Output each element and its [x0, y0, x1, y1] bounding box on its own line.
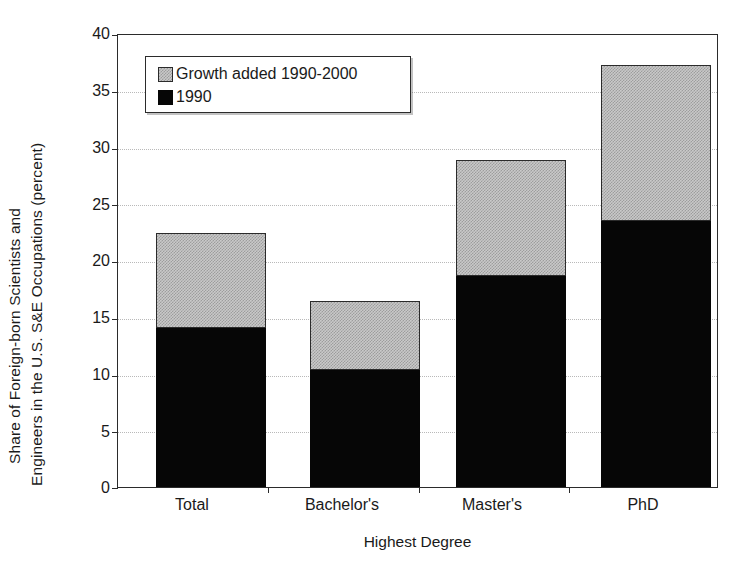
y-tick-label-15: 15: [76, 310, 110, 326]
bar-bachelors[interactable]: [310, 301, 420, 487]
y-tickmark-30: [112, 149, 118, 150]
legend-entry-1990[interactable]: 1990: [158, 87, 212, 107]
bar-masters-segment-growth[interactable]: [456, 160, 566, 276]
y-tickmark-35: [112, 92, 118, 93]
x-tickmark-2: [419, 487, 420, 493]
legend-entry-growth[interactable]: Growth added 1990-2000: [158, 64, 357, 84]
bar-masters[interactable]: [456, 160, 566, 487]
y-axis-title: Share of Foreign-born Scientists and Eng…: [0, 0, 62, 500]
x-tick-label-phd: PhD: [568, 496, 718, 514]
y-tick-label-40: 40: [76, 26, 110, 42]
legend: Growth added 1990-2000 1990: [145, 56, 411, 113]
legend-label-growth: Growth added 1990-2000: [176, 66, 357, 82]
y-tick-label-30: 30: [76, 140, 110, 156]
y-tick-label-0: 0: [76, 480, 110, 496]
y-tickmark-40: [112, 35, 118, 36]
legend-label-1990: 1990: [176, 89, 212, 105]
y-tick-label-10: 10: [76, 367, 110, 383]
y-tick-label-5: 5: [76, 424, 110, 440]
x-axis-title: Highest Degree: [117, 533, 718, 551]
y-axis-title-line-2: Engineers in the U.S. S&E Occupations (p…: [28, 143, 46, 486]
x-tickmark-3: [569, 487, 570, 493]
y-tick-label-35: 35: [76, 83, 110, 99]
y-axis-tick-labels: 40 35 30 25 20 15 10 5 0: [72, 0, 110, 565]
y-tickmark-5: [112, 432, 118, 433]
y-tickmark-10: [112, 376, 118, 377]
bar-phd[interactable]: [601, 65, 711, 487]
bar-total-segment-1990[interactable]: [156, 328, 266, 487]
bar-phd-segment-growth[interactable]: [601, 65, 711, 222]
x-tick-label-masters: Master's: [417, 496, 567, 514]
legend-swatch-growth-icon: [158, 67, 173, 82]
y-axis-title-line-1: Share of Foreign-born Scientists and: [6, 208, 24, 464]
y-tick-label-25: 25: [76, 197, 110, 213]
y-tickmark-15: [112, 319, 118, 320]
y-tick-label-20: 20: [76, 253, 110, 269]
y-tickmark-0: [112, 488, 118, 489]
x-tickmark-1: [268, 487, 269, 493]
bar-bachelors-segment-1990[interactable]: [310, 370, 420, 487]
bar-total[interactable]: [156, 233, 266, 487]
bar-masters-segment-1990[interactable]: [456, 276, 566, 487]
legend-swatch-1990-icon: [158, 90, 173, 105]
y-tickmark-25: [112, 205, 118, 206]
y-tickmark-20: [112, 262, 118, 263]
x-tick-label-bachelors: Bachelor's: [267, 496, 417, 514]
bar-total-segment-growth[interactable]: [156, 233, 266, 328]
stacked-bar-chart: Share of Foreign-born Scientists and Eng…: [0, 0, 729, 565]
x-tick-label-total: Total: [117, 496, 267, 514]
bar-phd-segment-1990[interactable]: [601, 221, 711, 487]
bar-bachelors-segment-growth[interactable]: [310, 301, 420, 370]
